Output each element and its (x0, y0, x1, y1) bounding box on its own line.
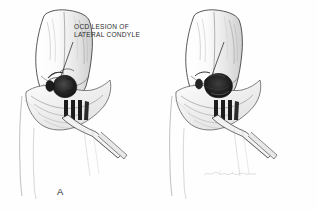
callout-a-line2: LATERAL CONDYLE (74, 31, 140, 39)
artist-signature (202, 168, 258, 178)
callout-a-line1: OCD LESION OF (74, 23, 129, 30)
panel-a: OCD LESION OF LATERAL CONDYLE A (0, 0, 159, 210)
figure-root: OCD LESION OF LATERAL CONDYLE A (0, 0, 318, 210)
panel-b: OCD LESION AFTER CURETTAGE B (159, 0, 318, 210)
panel-letter-a: A (57, 186, 64, 197)
callout-label-a: OCD LESION OF LATERAL CONDYLE (74, 23, 140, 40)
panel-b-illustration (159, 0, 318, 210)
